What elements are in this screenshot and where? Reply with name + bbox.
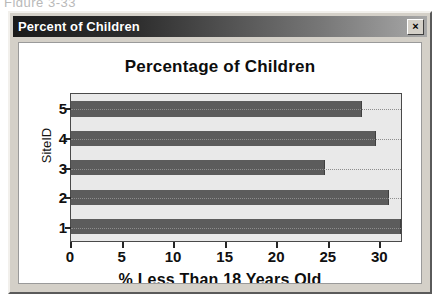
x-axis-label: % Less Than 18 Years Old	[19, 271, 421, 284]
y-tick-mark	[65, 138, 71, 140]
gridline	[71, 169, 401, 170]
bar-row	[71, 153, 401, 182]
x-tick-label: 25	[319, 249, 336, 264]
x-tick-label: 10	[165, 249, 182, 264]
bar-series	[71, 94, 401, 241]
bar	[71, 219, 401, 234]
y-tick-mark	[65, 197, 71, 199]
gridline	[71, 139, 401, 140]
gridline	[71, 198, 401, 199]
gridline	[71, 228, 401, 229]
x-tick-label: 30	[371, 249, 388, 264]
y-axis-ticklabels: 12345	[47, 93, 67, 242]
bar-row	[71, 212, 401, 241]
chart-canvas: Percentage of Children SiteID 12345 % Le…	[18, 42, 422, 284]
x-tick-label: 5	[117, 249, 125, 264]
window-title: Percent of Children	[18, 19, 140, 34]
gridline	[71, 109, 401, 110]
bar	[71, 190, 389, 205]
close-button[interactable]: ×	[407, 19, 424, 35]
scan-caption: Figure 3-33	[4, 0, 76, 7]
y-tick-mark	[65, 108, 71, 110]
y-tick-mark	[65, 227, 71, 229]
application-window: Percent of Children × Percentage of Chil…	[8, 11, 432, 294]
bar-row	[71, 182, 401, 211]
chart-title: Percentage of Children	[19, 57, 421, 77]
x-tick-label: 20	[268, 249, 285, 264]
plot-area	[70, 93, 402, 242]
y-tick-mark	[65, 168, 71, 170]
close-icon: ×	[412, 21, 418, 32]
x-tick-label: 15	[216, 249, 233, 264]
window-titlebar[interactable]: Percent of Children ×	[13, 16, 427, 37]
x-tick-label: 0	[66, 249, 74, 264]
